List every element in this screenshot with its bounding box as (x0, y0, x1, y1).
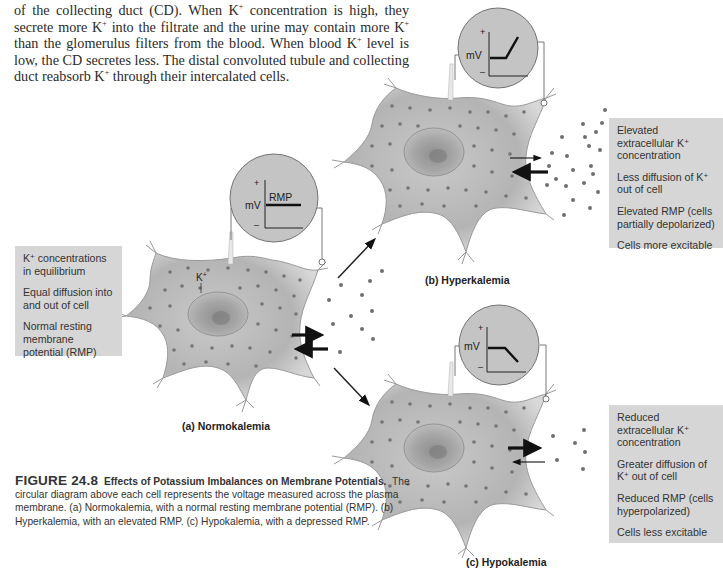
voltage-meter-b (458, 8, 538, 88)
info-line: Cells less excitable (617, 526, 715, 539)
info-box-normokalemia: K+ concentrations in equilibrium Equal d… (15, 246, 122, 356)
arrow-to-hyperkalemia (338, 240, 374, 278)
figure-number: FIGURE 24.8 (15, 473, 98, 488)
meter-c-minus: – (478, 362, 483, 372)
meter-c-plus: + (478, 323, 483, 333)
info-line: Reduced extracellular K+ concentration (617, 411, 715, 449)
meter-a-minus: – (254, 220, 259, 230)
info-line: Elevated RMP (cells partially depolarize… (617, 205, 715, 230)
info-line: Elevated extracellular K+ concentration (617, 124, 715, 162)
info-line: Cells more excitable (617, 239, 715, 252)
meter-b-plus: + (480, 27, 485, 37)
info-line: K+ concentrations in equilibrium (23, 252, 114, 277)
meter-c-unit: mV (464, 340, 480, 352)
figure-caption: FIGURE 24.8 Effects of Potassium Imbalan… (15, 474, 410, 528)
meter-a-unit: mV (245, 199, 261, 211)
info-line: Normal resting membrane potential (RMP) (23, 320, 114, 358)
figure-title: Effects of Potassium Imbalances on Membr… (104, 476, 387, 487)
ion-charge: + (203, 271, 207, 278)
meter-b-minus: – (480, 67, 485, 77)
info-line: Greater diffusion of K+ out of cell (617, 458, 715, 483)
panel-label-b: (b) Hyperkalemia (425, 274, 510, 286)
info-box-hypokalemia: Reduced extracellular K+ concentration G… (609, 405, 723, 543)
info-line: Less diffusion of K+ out of cell (617, 171, 715, 196)
meter-b-unit: mV (466, 49, 482, 61)
panel-label-a: (a) Normokalemia (182, 420, 270, 432)
ion-symbol: K (196, 272, 203, 283)
meter-a-plus: + (254, 178, 259, 188)
panel-label-c: (c) Hypokalemia (466, 556, 547, 568)
info-box-hyperkalemia: Elevated extracellular K+ concentration … (609, 118, 723, 248)
cell-a-normokalemia (114, 208, 384, 412)
info-line: Reduced RMP (cells hyperpolarized) (617, 492, 715, 517)
info-line: Equal diffusion into and out of cell (23, 286, 114, 311)
meter-a-rmp-label: RMP (269, 191, 292, 203)
potassium-ion-label: K+ (196, 272, 207, 283)
arrow-to-hypokalemia (334, 368, 368, 404)
